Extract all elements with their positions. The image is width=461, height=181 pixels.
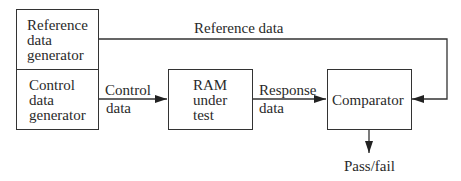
control-generator-label-1: Control <box>29 78 75 93</box>
control-data-label-1: Control <box>105 83 151 98</box>
reference-generator-label-2: data <box>27 33 52 48</box>
control-generator-label-3: generator <box>29 108 86 123</box>
pass-fail-label: Pass/fail <box>344 159 395 174</box>
ram-label-3: test <box>193 108 214 123</box>
ram-label-2: under <box>193 93 227 108</box>
reference-generator-label-3: generator <box>27 48 84 63</box>
response-data-label-1: Response <box>259 83 317 98</box>
control-data-label-2: data <box>106 101 131 116</box>
comparator-label: Comparator <box>332 93 404 108</box>
control-generator-label-2: data <box>29 93 54 108</box>
response-data-label-2: data <box>259 101 284 116</box>
reference-generator-label-1: Reference <box>27 18 88 33</box>
ram-label-1: RAM <box>193 78 227 93</box>
reference-data-label: Reference data <box>194 21 284 36</box>
